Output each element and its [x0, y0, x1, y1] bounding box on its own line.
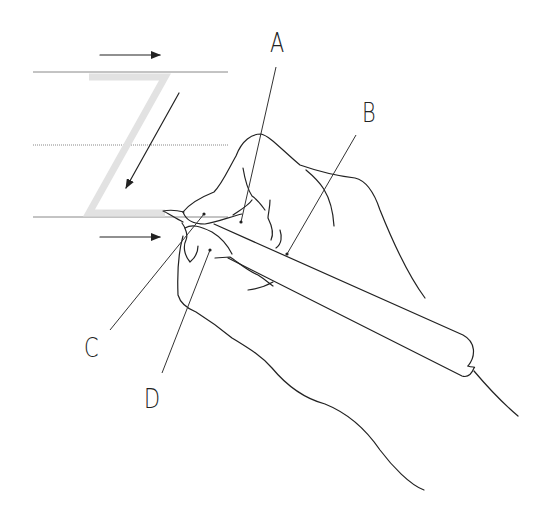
middle-finger-outline	[215, 257, 273, 286]
leader-c-dot	[202, 212, 205, 215]
label-c: C	[84, 335, 99, 361]
leader-d-dot	[208, 248, 211, 251]
palm-outline	[178, 236, 424, 490]
index-finger-outline	[183, 134, 425, 298]
label-a: A	[270, 30, 284, 56]
pen-barrel-bottom	[228, 258, 475, 376]
pen-grip-diagram	[0, 0, 541, 518]
pen-barrel-top	[214, 224, 473, 366]
leader-d	[162, 250, 210, 373]
pen-tip	[163, 210, 184, 222]
arrow-down-left-icon	[126, 93, 179, 188]
finger-crease-4	[276, 230, 281, 248]
finger-crease-3	[268, 200, 272, 240]
leader-c	[110, 214, 204, 330]
pen-end-line	[474, 371, 518, 416]
pen	[163, 210, 518, 416]
finger-crease-1	[243, 168, 265, 210]
index-tip-crease	[183, 212, 242, 224]
leader-b-dot	[285, 252, 288, 255]
label-b: B	[362, 100, 376, 126]
leader-a-dot	[239, 220, 242, 223]
leader-a	[241, 67, 276, 222]
label-d: D	[144, 386, 160, 412]
thumb-outline	[182, 223, 198, 262]
leader-b	[287, 135, 356, 254]
finger-crease-2	[233, 200, 252, 215]
hand	[178, 134, 425, 490]
